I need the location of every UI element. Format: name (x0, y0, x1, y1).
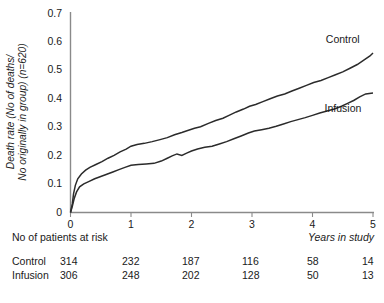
risk-infusion-y3: 128 (242, 269, 260, 281)
risk-infusion-y4: 50 (307, 269, 319, 281)
table-row: Control 314 232 187 116 58 14 (0, 255, 384, 269)
risk-control-y3: 116 (242, 255, 259, 267)
risk-control-y4: 58 (307, 255, 319, 267)
x-tick-0: 0 (68, 218, 74, 230)
x-tick-1: 1 (128, 218, 134, 230)
y-axis-label: Death rate (No of deaths/ No originally … (5, 43, 28, 180)
series-label-control: Control (326, 33, 360, 45)
patients-at-risk-table: No of patients at risk Control 314 232 1… (0, 231, 384, 303)
survival-chart: Death rate (No of deaths/ No originally … (0, 0, 384, 303)
y-tick-0.2: 0.2 (47, 149, 62, 161)
risk-control-y2: 187 (182, 255, 200, 267)
risk-control-y0: 314 (60, 255, 78, 267)
y-tick-labels: 0.7 0.6 0.5 0.4 0.3 0.2 0.1 0 (47, 7, 62, 218)
y-tick-0.4: 0.4 (47, 92, 62, 104)
risk-row-label-control: Control (12, 255, 46, 267)
risk-infusion-y2: 202 (182, 269, 200, 281)
x-tick-4: 4 (310, 218, 316, 230)
risk-row-label-infusion: Infusion (12, 269, 49, 281)
table-row: Infusion 306 248 202 128 50 13 (0, 269, 384, 283)
y-tick-0.5: 0.5 (47, 63, 62, 75)
y-axis-label-line1: Death rate (No of deaths/ (5, 54, 16, 170)
risk-infusion-y1: 248 (122, 269, 140, 281)
y-tick-0.6: 0.6 (47, 35, 62, 47)
x-tick-labels: 0 1 2 3 4 5 (68, 218, 377, 230)
series-label-infusion: Infusion (325, 102, 362, 114)
risk-table-title: No of patients at risk (12, 231, 108, 243)
x-tick-5: 5 (370, 218, 376, 230)
risk-control-y5: 14 (362, 255, 374, 267)
y-tick-0.1: 0.1 (47, 177, 62, 189)
risk-infusion-y0: 306 (60, 269, 78, 281)
y-tick-0: 0 (56, 206, 62, 218)
x-tick-3: 3 (249, 218, 255, 230)
y-tick-0.7: 0.7 (47, 7, 62, 19)
x-tick-2: 2 (189, 218, 195, 230)
risk-control-y1: 232 (122, 255, 140, 267)
y-axis-label-line2: No originally in group) (n=620) (17, 43, 28, 180)
y-tick-0.3: 0.3 (47, 120, 62, 132)
risk-infusion-y5: 13 (362, 269, 374, 281)
curve-control (71, 53, 374, 212)
